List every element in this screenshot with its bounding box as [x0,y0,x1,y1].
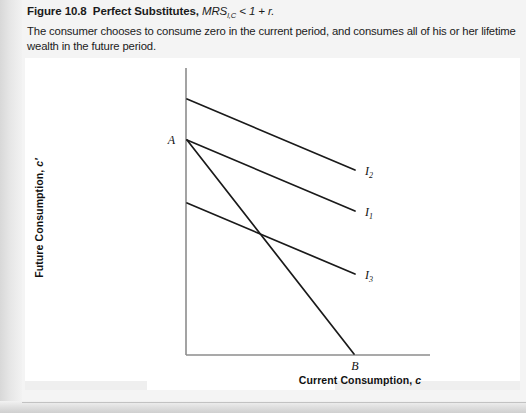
y-axis-title: Future Consumption, c′ [33,158,45,278]
figure-caption-body: The consumer chooses to consume zero in … [27,24,519,53]
figure-caption: Figure 10.8 Perfect Substitutes, MRSl,C … [27,4,519,53]
curve-label-i3: I3 [364,268,373,284]
page-gutter-shadow [0,0,22,413]
budget-constraint-line [187,140,354,354]
mrs-relation: < 1 + r. [236,5,274,17]
page-bottom-rule [22,402,526,403]
curve-label-i2: I2 [364,164,373,180]
figure-title-text: Perfect Substitutes, [87,5,202,17]
figure-caption-title: Figure 10.8 Perfect Substitutes, MRSl,C … [27,4,519,23]
x-axis-title: Current Consumption, c [299,374,421,386]
curve-i3 [187,203,355,274]
mrs-symbol: MRSl,C [202,5,236,17]
figure-number: Figure 10.8 [27,5,87,17]
curve-i1 [187,140,355,211]
point-label-b: B [351,359,359,373]
scanned-page: Figure 10.8 Perfect Substitutes, MRSl,C … [0,0,526,413]
point-label-a: A [167,133,176,147]
mrs-subscript: l,C [227,11,236,20]
curve-i2 [187,99,355,170]
chart-plot-area: Future Consumption, c′ Current Consumpti… [25,58,520,390]
curve-label-i1: I1 [364,205,373,221]
